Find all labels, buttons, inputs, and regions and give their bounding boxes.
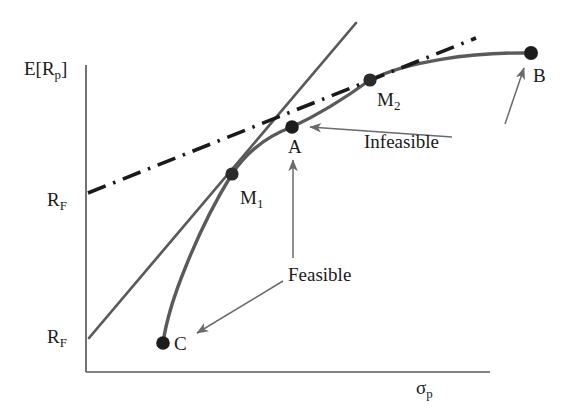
point-label-m1: M1 bbox=[240, 188, 263, 207]
point-label-m2-main: M bbox=[377, 89, 394, 110]
point-label-m2: M2 bbox=[377, 90, 400, 109]
x-axis-label-main: σ bbox=[416, 377, 426, 398]
marker-point-m1 bbox=[225, 167, 238, 180]
risk-free-rate-upper-label: RF bbox=[47, 190, 67, 209]
point-label-a: A bbox=[288, 137, 302, 156]
y-axis-label-main: E[R bbox=[24, 58, 55, 79]
y-axis-label-sub: p bbox=[55, 67, 62, 82]
y-axis-label-close: ] bbox=[61, 58, 67, 79]
risk-free-lower-main: R bbox=[47, 326, 60, 347]
marker-point-b bbox=[524, 46, 538, 60]
tangent-line-dashdot bbox=[88, 38, 476, 193]
risk-free-lower-sub: F bbox=[60, 335, 67, 350]
point-label-m2-sub: 2 bbox=[394, 98, 401, 113]
y-axis-label: E[Rp] bbox=[24, 59, 67, 78]
arrow-infeasible-to-b bbox=[505, 68, 524, 124]
efficient-frontier-figure: E[Rp] σp RF RF M1 M2 A B C Feasible Infe… bbox=[0, 0, 567, 419]
arrow-feasible-to-c bbox=[197, 281, 283, 333]
point-label-c: C bbox=[174, 334, 187, 353]
annotation-infeasible: Infeasible bbox=[364, 132, 439, 151]
x-axis-label: σp bbox=[416, 378, 433, 397]
x-axis-label-sub: p bbox=[426, 386, 433, 401]
figure-canvas bbox=[0, 0, 567, 419]
risk-free-upper-main: R bbox=[47, 189, 60, 210]
marker-point-a bbox=[285, 120, 299, 134]
risk-free-rate-lower-label: RF bbox=[47, 327, 67, 346]
point-label-m1-sub: 1 bbox=[257, 196, 264, 211]
frontier-curve bbox=[163, 53, 531, 343]
marker-point-m2 bbox=[363, 73, 376, 86]
point-label-b: B bbox=[533, 66, 546, 85]
point-label-m1-main: M bbox=[240, 187, 257, 208]
annotation-feasible: Feasible bbox=[288, 265, 351, 284]
tangent-line-steep bbox=[89, 23, 356, 338]
risk-free-upper-sub: F bbox=[60, 198, 67, 213]
marker-point-c bbox=[156, 336, 170, 350]
